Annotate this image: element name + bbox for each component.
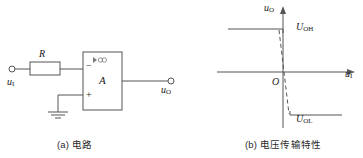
resistor-R <box>30 62 60 75</box>
high-level-label: UOH <box>296 21 313 33</box>
input-terminal-node <box>9 66 15 72</box>
caption-panel-a: (a) 电路 <box>57 137 92 151</box>
figure-container: uI R uO A − + uO uI O UOH UOL (a) 电路 (b)… <box>0 0 363 158</box>
wire-noninverting-to-ground <box>58 95 83 112</box>
y-axis-label: uO <box>264 2 274 14</box>
resistor-label: R <box>39 48 45 59</box>
y-axis-arrowhead <box>280 6 286 14</box>
opamp-label: A <box>99 74 106 86</box>
inverting-input-sign: − <box>86 60 92 71</box>
ground-symbol <box>48 112 68 118</box>
output-voltage-label: uO <box>161 84 171 96</box>
input-voltage-label: uI <box>7 76 14 88</box>
noninverting-input-sign: + <box>86 89 92 100</box>
low-level-label: UOL <box>296 113 313 125</box>
caption-panel-b: (b) 电压传输特性 <box>245 137 321 151</box>
transfer-characteristic-chart <box>217 6 355 128</box>
x-axis-label: uI <box>345 68 352 80</box>
origin-label: O <box>272 76 279 87</box>
